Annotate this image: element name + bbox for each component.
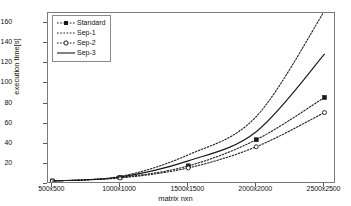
- x-tick-mark: [255, 183, 256, 187]
- data-point-marker: [186, 166, 190, 170]
- legend-item-sep-3[interactable]: Sep-3: [56, 48, 105, 58]
- legend-item-sep-2[interactable]: Sep-2: [56, 38, 105, 48]
- y-tick-label: 40: [4, 139, 12, 146]
- y-tick-label: 160: [1, 18, 12, 25]
- chart-figure: execution time[s] 20406080100120140160 5…: [0, 0, 351, 206]
- x-tick-mark: [323, 183, 324, 187]
- legend: StandardSep-1Sep-2Sep-3: [52, 15, 111, 62]
- legend-item-standard[interactable]: Standard: [56, 18, 105, 28]
- data-point-marker: [322, 95, 326, 99]
- x-tick-mark: [187, 183, 188, 187]
- series-sep-3: [52, 54, 324, 181]
- y-tick-label: 60: [4, 119, 12, 126]
- legend-label: Sep-2: [76, 38, 96, 48]
- y-tick-label: 140: [1, 38, 12, 45]
- data-point-marker: [254, 138, 258, 142]
- y-tick-mark: [43, 183, 47, 184]
- y-tick-label: 80: [4, 99, 12, 106]
- legend-label: Standard: [76, 18, 105, 28]
- x-axis-title: matrix nxn: [0, 194, 351, 203]
- y-tick-label: 20: [4, 159, 12, 166]
- x-tick-mark: [51, 183, 52, 187]
- legend-swatch-icon: [56, 48, 76, 58]
- legend-label: Sep-3: [76, 48, 96, 58]
- x-tick-mark: [119, 183, 120, 187]
- legend-swatch-icon: [56, 28, 76, 38]
- series-line: [52, 113, 324, 181]
- legend-label: Sep-1: [76, 28, 96, 38]
- legend-item-sep-1[interactable]: Sep-1: [56, 28, 105, 38]
- y-tick-label: 100: [1, 78, 12, 85]
- series-line: [52, 54, 324, 181]
- y-tick-label: 120: [1, 58, 12, 65]
- data-point-marker: [254, 145, 258, 149]
- data-point-marker: [322, 111, 326, 115]
- series-sep-2: [50, 111, 326, 183]
- legend-swatch-icon: [56, 38, 76, 48]
- y-axis-title: execution time[s]: [12, 19, 21, 115]
- legend-swatch-icon: [56, 18, 76, 28]
